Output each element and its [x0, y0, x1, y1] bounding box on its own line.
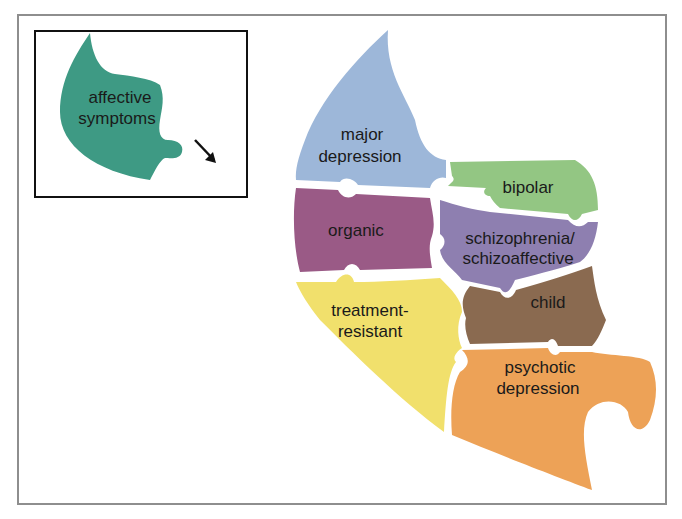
affective-label-line2: symptoms	[78, 109, 155, 128]
svg-text:schizoaffective: schizoaffective	[462, 249, 573, 268]
svg-text:depression: depression	[318, 147, 401, 166]
svg-text:psychotic: psychotic	[505, 358, 576, 377]
svg-text:treatment-: treatment-	[331, 301, 408, 320]
svg-text:resistant: resistant	[338, 322, 403, 341]
puzzle-diagram: affective symptoms major depression bipo…	[0, 0, 682, 519]
svg-text:organic: organic	[328, 221, 384, 240]
affective-label-line1: affective	[88, 88, 151, 107]
arrow-down-right-icon	[195, 140, 216, 163]
svg-text:bipolar: bipolar	[502, 178, 553, 197]
piece-psychotic-depression: psychotic depression	[451, 348, 656, 490]
svg-text:major: major	[341, 125, 384, 144]
piece-treatment-resistant: treatment- resistant	[296, 275, 462, 433]
piece-major-depression: major depression	[296, 30, 446, 188]
piece-organic: organic	[294, 188, 434, 272]
svg-text:schizophrenia/: schizophrenia/	[465, 229, 575, 248]
svg-text:depression: depression	[496, 379, 579, 398]
affective-symptoms-piece: affective symptoms	[60, 33, 182, 180]
svg-text:child: child	[531, 293, 566, 312]
